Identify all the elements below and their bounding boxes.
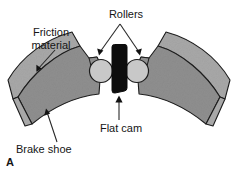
rollers-arrowhead-right bbox=[136, 49, 142, 56]
roller-left bbox=[90, 60, 113, 83]
friction-material-label-line1: Friction bbox=[20, 26, 82, 39]
brake-shoe-label: Brake shoe bbox=[16, 143, 92, 155]
rollers-label: Rollers bbox=[96, 8, 156, 20]
friction-material-label-line2: material bbox=[20, 39, 82, 52]
flat-cam-arrowhead bbox=[115, 96, 122, 103]
panel-label: A bbox=[6, 156, 14, 168]
rollers-arrowhead-left bbox=[97, 49, 103, 56]
roller-right bbox=[126, 60, 149, 83]
brake-mechanism-figure: Friction material Rollers Flat cam Brake… bbox=[0, 0, 238, 173]
flat-cam bbox=[112, 45, 127, 94]
right-brake-shoe-assembly bbox=[137, 32, 230, 126]
friction-material-label: Friction material bbox=[20, 26, 82, 51]
flat-cam-label: Flat cam bbox=[86, 122, 156, 134]
brake-shoe-leader-line bbox=[47, 112, 57, 142]
